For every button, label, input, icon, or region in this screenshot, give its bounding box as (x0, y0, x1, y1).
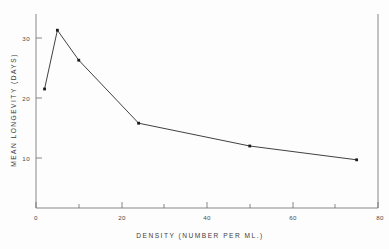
x-tick-label-40: 40 (203, 214, 211, 221)
line-chart-canvas: 30 20 10 0 20 40 60 80 DENSITY (NUMBER P… (0, 0, 389, 249)
x-tick-label-80: 80 (376, 214, 384, 221)
x-axis-title: DENSITY (NUMBER PER ML.) (136, 232, 263, 240)
y-axis-title: MEAN LONGEVITY (DAYS) (10, 53, 18, 167)
chart-figure: 30 20 10 0 20 40 60 80 DENSITY (NUMBER P… (0, 0, 389, 249)
data-point-4 (248, 145, 251, 148)
data-point-3 (137, 122, 140, 125)
y-tick-label-20: 20 (22, 95, 30, 102)
x-tick-label-0: 0 (34, 214, 38, 221)
data-point-0 (43, 88, 46, 91)
data-point-2 (77, 59, 80, 62)
data-series-line (45, 30, 357, 160)
x-tick-label-60: 60 (289, 214, 297, 221)
y-axis-ticks (36, 38, 42, 158)
x-axis-ticks (36, 202, 378, 208)
y-tick-label-10: 10 (22, 155, 30, 162)
data-point-1 (56, 29, 59, 32)
data-point-markers (43, 29, 358, 161)
x-tick-label-20: 20 (118, 214, 126, 221)
y-tick-label-30: 30 (22, 35, 30, 42)
data-point-5 (355, 158, 358, 161)
